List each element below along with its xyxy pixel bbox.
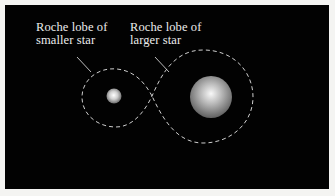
leader-line-smaller (77, 57, 91, 72)
label-larger-star-lobe: Roche lobe of larger star (130, 21, 201, 47)
label-line: larger star (130, 34, 201, 47)
diagram-panel: Roche lobe of smaller star Roche lobe of… (5, 5, 329, 189)
smaller-star (107, 89, 122, 104)
label-line: smaller star (36, 34, 107, 47)
leader-line-larger (155, 57, 169, 72)
label-smaller-star-lobe: Roche lobe of smaller star (36, 21, 107, 47)
larger-star (190, 76, 232, 118)
